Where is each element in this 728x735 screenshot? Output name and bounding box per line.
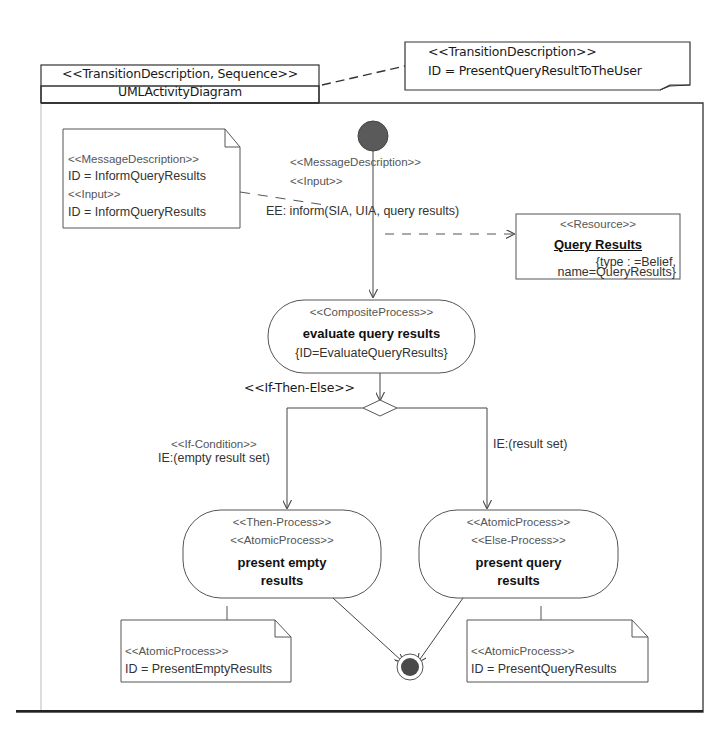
left-branch-stereotype: <<If-Condition>>	[171, 438, 257, 450]
else-process-name2: results	[419, 573, 618, 588]
decision-stereotype: <<If-Then-Else>>	[244, 380, 355, 395]
resource-attr2: name=QueryResults}	[558, 265, 676, 279]
then-process-name2: results	[183, 573, 381, 588]
query-note-id: ID = PresentQueryResults	[471, 662, 617, 676]
message-note-line3: <<Input>>	[68, 188, 120, 200]
frame-stereotype: <<TransitionDescription, Sequence>>	[41, 66, 319, 81]
resource-name: Query Results	[516, 237, 680, 252]
left-branch-guard: IE:(empty result set)	[158, 451, 270, 465]
initial-edge-stereotype2: <<Input>>	[290, 175, 342, 187]
composite-name: evaluate query results	[268, 326, 475, 341]
decision-node[interactable]	[363, 400, 397, 416]
resource-stereotype: <<Resource>>	[516, 218, 680, 230]
else-to-final-edge	[418, 598, 463, 662]
then-process-stereotype1: <<Then-Process>>	[183, 516, 381, 528]
frame-name: UMLActivityDiagram	[41, 84, 319, 99]
right-branch-guard: IE:(result set)	[493, 437, 567, 451]
transition-note-anchor	[322, 66, 405, 85]
transition-note-stereotype: <<TransitionDescription>>	[428, 44, 597, 59]
message-note-line2: ID = InformQueryResults	[68, 169, 206, 183]
activity-diagram-canvas	[0, 0, 728, 735]
then-to-final-edge	[333, 598, 403, 662]
else-process-stereotype2: <<Else-Process>>	[419, 534, 618, 546]
initial-node[interactable]	[358, 121, 388, 151]
query-note-stereotype: <<AtomicProcess>>	[471, 645, 575, 657]
message-note-line1: <<MessageDescription>>	[68, 153, 199, 165]
empty-note-id: ID = PresentEmptyResults	[125, 662, 272, 676]
else-process-stereotype1: <<AtomicProcess>>	[419, 516, 618, 528]
transition-note-id: ID = PresentQueryResultToTheUser	[428, 63, 642, 78]
message-note-line4: ID = InformQueryResults	[68, 205, 206, 219]
then-process-name1: present empty	[183, 555, 381, 570]
composite-id: {ID=EvaluateQueryResults}	[268, 346, 475, 360]
final-node-inner	[401, 658, 419, 676]
else-process-name1: present query	[419, 555, 618, 570]
composite-stereotype: <<CompositeProcess>>	[268, 306, 475, 318]
initial-edge-stereotype1: <<MessageDescription>>	[290, 156, 421, 168]
initial-edge-label: EE: inform(SIA, UIA, query results)	[266, 204, 459, 218]
then-process-stereotype2: <<AtomicProcess>>	[183, 534, 381, 546]
empty-note-stereotype: <<AtomicProcess>>	[125, 645, 229, 657]
